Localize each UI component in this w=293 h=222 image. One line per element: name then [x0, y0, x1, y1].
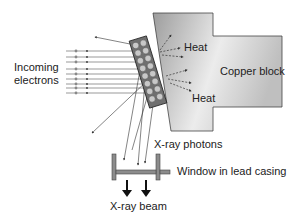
xray-beam-label: X-ray beam — [110, 200, 167, 212]
heat-label-top: Heat — [184, 41, 207, 53]
incoming-electrons-label-1: Incoming — [14, 61, 59, 73]
electron-dots — [75, 50, 88, 95]
heat-label-bottom: Heat — [192, 92, 215, 104]
incoming-electrons-label-2: electrons — [14, 74, 59, 86]
lead-casing-window — [112, 154, 170, 180]
xray-photons-label: X-ray photons — [154, 138, 222, 150]
xray-beam-arrows — [122, 180, 151, 197]
window-label: Window in lead casing — [177, 165, 286, 177]
xray-tube-diagram — [0, 0, 293, 222]
copper-block-label: Copper block — [220, 65, 285, 77]
